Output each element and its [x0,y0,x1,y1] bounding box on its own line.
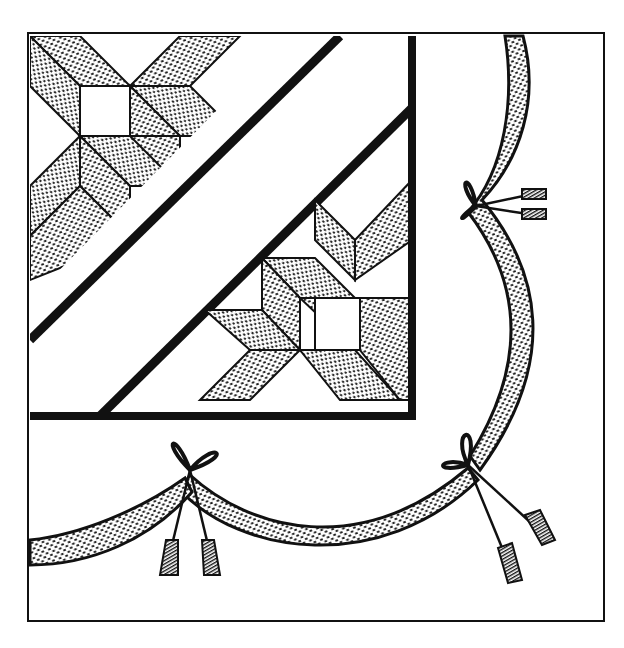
quilt-corner-illustration [0,0,624,648]
